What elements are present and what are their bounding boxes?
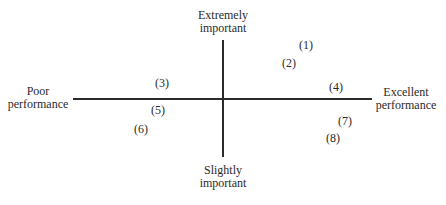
point-4: (4)	[329, 81, 343, 94]
top-label-line-2: important	[194, 22, 252, 35]
top-axis-label: Extremely important	[194, 9, 252, 35]
point-3: (3)	[155, 77, 169, 90]
point-6: (6)	[134, 123, 148, 136]
point-2: (2)	[282, 57, 296, 70]
point-1: (1)	[299, 39, 313, 52]
point-7: (7)	[338, 115, 352, 128]
right-axis-label: Excellent performance	[374, 86, 438, 112]
point-8: (8)	[326, 132, 340, 145]
bottom-axis-label: Slightly important	[194, 164, 252, 190]
point-5: (5)	[151, 104, 165, 117]
bottom-label-line-2: important	[194, 177, 252, 190]
right-label-line-2: performance	[374, 99, 438, 112]
left-axis-label: Poor performance	[6, 85, 70, 111]
left-label-line-2: performance	[6, 98, 70, 111]
importance-axis	[222, 40, 224, 157]
